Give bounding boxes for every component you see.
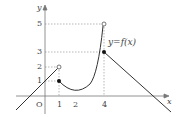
- y-axis-label: y: [37, 4, 42, 12]
- origin-label: O: [36, 101, 43, 109]
- x-axis-label: x: [167, 98, 172, 106]
- closed-point-4-3: [102, 50, 106, 54]
- function-graph: [0, 0, 176, 117]
- x-tick-2: 2: [73, 101, 78, 109]
- open-point-4-5: [102, 22, 106, 26]
- right-linear-piece: [104, 52, 171, 112]
- y-tick-3: 3: [37, 48, 42, 56]
- x-tick-1: 1: [57, 101, 62, 109]
- open-point-1-2: [57, 65, 61, 69]
- function-label: y=f(x): [108, 38, 136, 47]
- y-tick-2: 2: [37, 63, 42, 71]
- y-tick-5: 5: [37, 20, 42, 28]
- y-tick-1: 1: [37, 77, 42, 85]
- y-axis-arrow-icon: [43, 5, 47, 10]
- parabola-piece: [59, 26, 103, 90]
- x-tick-4: 4: [102, 101, 107, 109]
- closed-point-1-1: [57, 79, 61, 83]
